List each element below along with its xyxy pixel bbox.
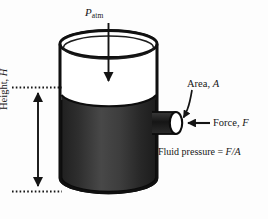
atmospheric-pressure-subscript: atm — [92, 11, 104, 20]
fluid-pressure-text: Fluid pressure = — [158, 146, 226, 157]
fluid-pressure-symbol: F/A — [226, 146, 241, 157]
nozzle-opening — [170, 112, 182, 134]
force-symbol: F — [242, 117, 248, 128]
atmospheric-pressure-symbol: P — [85, 6, 92, 18]
fluid-pressure-formula: Fluid pressure = F/A — [158, 147, 241, 157]
height-label: Height, H — [0, 69, 10, 110]
height-symbol: H — [0, 69, 9, 77]
fluid-body — [61, 95, 156, 192]
outlet-nozzle — [152, 112, 182, 134]
fluid-fill — [61, 95, 156, 192]
area-label: Area, A — [187, 79, 219, 90]
area-symbol: A — [213, 78, 219, 89]
pressure-diagram-figure: Patm Area, A Force, F Fluid pressure = F… — [0, 0, 268, 219]
height-label-text: Height, — [0, 76, 9, 110]
atmospheric-pressure-label: Patm — [85, 7, 104, 18]
force-label: Force, F — [213, 118, 249, 129]
diagram-canvas — [0, 0, 268, 219]
area-leader-line — [184, 90, 193, 118]
area-label-text: Area, — [187, 78, 213, 89]
force-label-text: Force, — [213, 117, 242, 128]
